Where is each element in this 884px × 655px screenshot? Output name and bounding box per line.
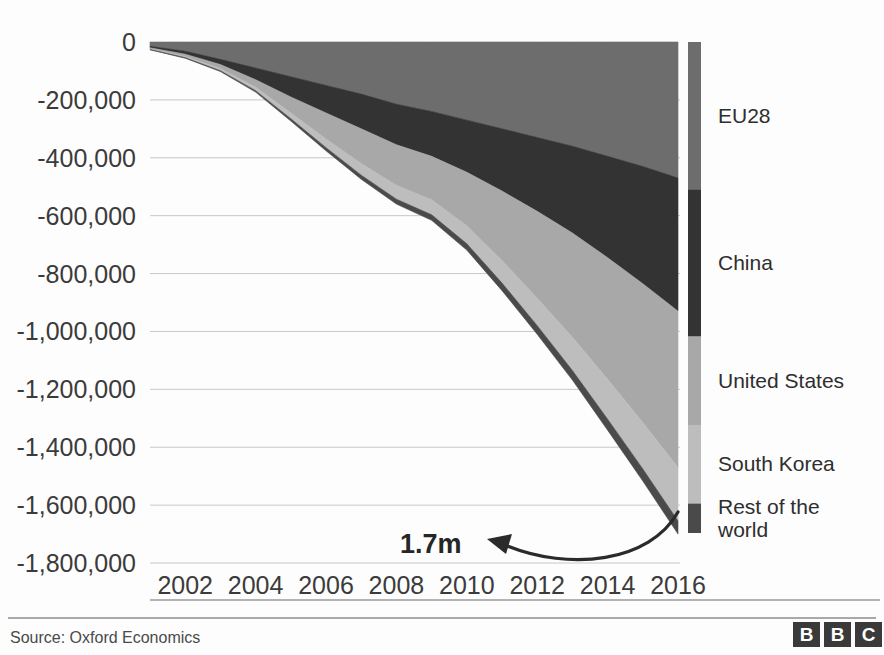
y-axis-tick-label: -1,000,000 <box>16 317 136 345</box>
y-axis-tick-label: -400,000 <box>37 144 136 172</box>
x-axis-tick-label: 2016 <box>650 571 706 599</box>
x-axis-tick-label: 2002 <box>157 571 213 599</box>
legend-swatch-eu28 <box>688 42 701 189</box>
y-axis-tick-label: -1,200,000 <box>16 375 136 403</box>
y-axis-tick-label: -1,800,000 <box>16 549 136 577</box>
legend-label: world <box>717 518 768 541</box>
chart-page: 0-200,000-400,000-600,000-800,000-1,000,… <box>0 0 884 655</box>
legend-label: South Korea <box>718 452 835 475</box>
legend-swatch-south-korea <box>688 425 701 504</box>
legend-swatch-united-states <box>688 337 701 425</box>
legend-label: China <box>718 251 773 274</box>
x-axis-tick-label: 2012 <box>509 571 565 599</box>
bbc-logo-letter: C <box>862 624 876 645</box>
x-axis-tick-label: 2008 <box>369 571 425 599</box>
y-axis-tick-label: -1,400,000 <box>16 433 136 461</box>
legend-swatch-china <box>688 189 701 336</box>
bbc-logo: BBC <box>793 622 882 647</box>
bbc-logo-letter: B <box>800 624 814 645</box>
source-note: Source: Oxford Economics <box>10 629 200 646</box>
y-axis-tick-label: -1,600,000 <box>16 491 136 519</box>
y-axis-tick-label: -600,000 <box>37 202 136 230</box>
x-axis-tick-label: 2010 <box>439 571 495 599</box>
x-axis-tick-label: 2014 <box>580 571 636 599</box>
legend-label: EU28 <box>718 104 771 127</box>
y-axis-tick-label: -800,000 <box>37 260 136 288</box>
bbc-logo-letter: B <box>831 624 845 645</box>
x-axis-tick-label: 2004 <box>228 571 284 599</box>
y-axis-tick-label: -200,000 <box>37 86 136 114</box>
legend-swatch-rest-of-the-world <box>688 504 701 533</box>
stacked-area-chart: 0-200,000-400,000-600,000-800,000-1,000,… <box>0 0 884 655</box>
x-axis-tick-label: 2006 <box>298 571 354 599</box>
annotation-label: 1.7m <box>400 529 462 559</box>
legend-label: United States <box>718 369 844 392</box>
legend-label: Rest of the <box>718 495 820 518</box>
y-axis-tick-label: 0 <box>122 28 136 56</box>
